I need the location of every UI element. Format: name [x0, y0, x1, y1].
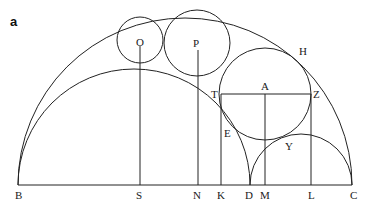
label-k: K — [217, 189, 225, 201]
label-p: P — [193, 37, 199, 49]
label-a: A — [261, 80, 269, 92]
label-e: E — [224, 127, 231, 139]
label-z: Z — [313, 88, 320, 100]
outer-semicircle — [18, 18, 352, 185]
geometry-diagram: a O P A T Z H E Y B S N K D M L C — [0, 0, 374, 211]
label-m: M — [260, 189, 270, 201]
label-d: D — [245, 189, 253, 201]
label-t: T — [211, 88, 218, 100]
label-h: H — [299, 45, 307, 57]
label-c: C — [350, 189, 357, 201]
label-o: O — [136, 36, 144, 48]
label-l: L — [308, 189, 315, 201]
panel-label: a — [10, 14, 18, 29]
label-s: S — [136, 189, 142, 201]
label-y: Y — [285, 140, 293, 152]
inner-left-semicircle — [18, 69, 250, 185]
label-b: B — [15, 189, 22, 201]
label-n: N — [193, 189, 201, 201]
